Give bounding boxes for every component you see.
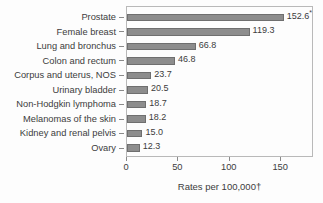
bar-value-number: 18.2 (149, 112, 167, 122)
category-label: Lung and bronchus (36, 39, 116, 54)
x-axis-tick (126, 157, 127, 161)
category-label: Corpus and uterus, NOS (14, 68, 116, 83)
bar-value-label: 152.6* (287, 13, 312, 21)
x-axis-tick-label: 150 (260, 162, 300, 172)
bars-layer: 152.6*119.366.846.823.720.518.718.215.01… (127, 7, 312, 156)
bar-value-label: 15.0 (145, 129, 163, 137)
category-tick-mark (119, 104, 124, 105)
category-tick-mark (119, 17, 124, 18)
x-axis-tick-label: 0 (106, 162, 146, 172)
category-label: Urinary bladder (52, 83, 116, 98)
category-tick-mark (119, 133, 124, 134)
category-tick-mark (119, 31, 124, 32)
bar-chart: ProstateFemale breastLung and bronchusCo… (0, 0, 323, 203)
bar-value-number: 23.7 (154, 69, 172, 79)
category-label: Melanomas of the skin (23, 112, 116, 127)
bar-value-label: 46.8 (178, 56, 196, 64)
bar (127, 57, 175, 65)
x-axis-tick (229, 157, 230, 161)
x-axis-tick (177, 157, 178, 161)
bar-value-number: 20.5 (151, 83, 169, 93)
bar-value-number: 12.3 (143, 141, 161, 151)
category-tick-mark (119, 46, 124, 47)
bar-value-label: 12.3 (143, 143, 161, 151)
category-tick-mark (119, 119, 124, 120)
category-axis-labels: ProstateFemale breastLung and bronchusCo… (0, 10, 116, 156)
category-tick-mark (119, 148, 124, 149)
bar-value-label: 23.7 (154, 71, 172, 79)
bar-value-number: 18.7 (149, 98, 167, 108)
bar (127, 43, 196, 51)
category-tick-mark (119, 75, 124, 76)
bar-value-number: 66.8 (199, 40, 217, 50)
bar-value-label: 18.2 (149, 114, 167, 122)
x-axis-tick-label: 50 (157, 162, 197, 172)
bar (127, 101, 146, 109)
category-label: Prostate (81, 10, 116, 25)
bar-value-label: 119.3 (253, 27, 275, 35)
bar-value-label: 20.5 (151, 85, 169, 93)
x-axis-tick-label: 100 (209, 162, 249, 172)
bar (127, 130, 142, 138)
category-label: Ovary (91, 141, 116, 156)
bar-value-number: 119.3 (253, 25, 275, 35)
category-tick-mark (119, 60, 124, 61)
x-axis-tick-marks (126, 157, 313, 161)
category-tick-mark (119, 90, 124, 91)
x-axis-tick (280, 157, 281, 161)
bar-value-number: 15.0 (145, 127, 163, 137)
bar-value-footnote-mark: * (309, 9, 312, 16)
category-label: Female breast (57, 25, 116, 40)
bar (127, 72, 151, 80)
bar-value-number: 152.6 (287, 11, 310, 21)
category-label: Colon and rectum (43, 54, 116, 69)
category-label: Non-Hodgkin lymphoma (16, 97, 116, 112)
x-axis-title: Rates per 100,000† (126, 181, 313, 192)
bar (127, 28, 250, 36)
bar (127, 115, 146, 123)
bar (127, 86, 148, 94)
bar (127, 144, 140, 152)
x-axis-tick-labels: 050100150 (0, 162, 323, 175)
bar-value-label: 18.7 (149, 100, 167, 108)
bar (127, 14, 284, 22)
bar-value-label: 66.8 (199, 42, 217, 50)
category-label: Kidney and renal pelvis (20, 126, 116, 141)
bar-value-number: 46.8 (178, 54, 196, 64)
